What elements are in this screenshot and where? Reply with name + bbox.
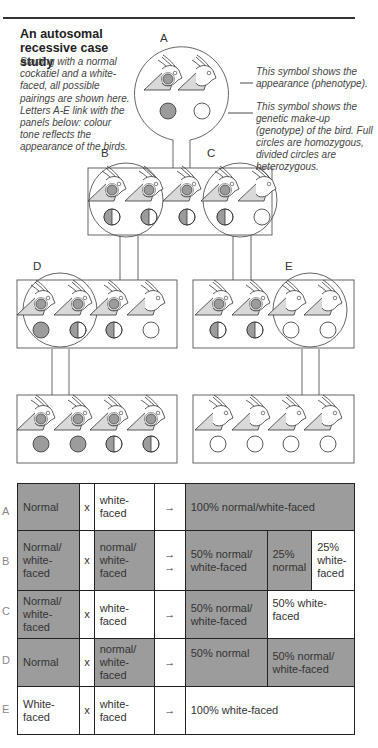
result-cell: 25% normal	[267, 531, 312, 591]
result-cell: 100% white-faced	[185, 687, 354, 735]
table-row-b: Normal/ white-faced x normal/ white-face…	[18, 531, 355, 591]
cross-cell: x	[80, 687, 94, 735]
genotype-circle-grey	[160, 103, 176, 119]
parent2-cell: normal/ white-faced	[94, 639, 154, 687]
parent1-cell: Normal	[18, 639, 80, 687]
results-table: Normal x white-faced → 100% normal/white…	[17, 483, 355, 735]
result-cell: 50% normal	[185, 639, 267, 687]
result-cell: 100% normal/white-faced	[185, 484, 354, 531]
arrow-cell: →	[154, 591, 185, 639]
arrow-cell: →	[154, 687, 185, 735]
parent2-cell: white-faced	[94, 484, 154, 531]
panel-bc	[88, 163, 277, 280]
cross-cell: x	[80, 591, 94, 639]
result-cell: 50% normal/ white-faced	[185, 591, 267, 639]
result-cell: 50% white-faced	[267, 591, 355, 639]
row-label-e: E	[2, 703, 9, 715]
table-row-e: White-faced x white-faced → 100% white-f…	[18, 687, 355, 735]
bird-icon-white-faced	[178, 55, 216, 90]
parent1-cell: Normal	[18, 484, 80, 531]
row-label-c: C	[2, 605, 10, 617]
arrow-cell: →	[154, 639, 185, 687]
cross-cell: x	[80, 484, 94, 531]
bird-icon-normal	[144, 55, 182, 90]
table-row-d: Normal x normal/ white-faced → 50% norma…	[18, 639, 355, 687]
result-cell: 50% normal/ white-faced	[185, 531, 267, 591]
panel-e-offspring	[193, 395, 354, 463]
parent1-cell: Normal/ white-faced	[18, 531, 80, 591]
table-row-c: Normal/ white-faced x white-faced → 50% …	[18, 591, 355, 639]
result-cell: 50% normal/ white-faced	[267, 639, 355, 687]
pedigree-diagram	[0, 0, 378, 480]
arrow-cell: → →	[154, 531, 185, 591]
panel-d-offspring	[17, 395, 177, 463]
cross-cell: x	[80, 639, 94, 687]
parent2-cell: white-faced	[94, 687, 154, 735]
row-label-b: B	[2, 555, 9, 567]
result-cell: 25% white-faced	[312, 531, 355, 591]
panel-d	[17, 273, 177, 395]
row-label-d: D	[2, 654, 10, 666]
parent2-cell: normal/ white-faced	[94, 531, 154, 591]
arrow-cell: →	[154, 484, 185, 531]
row-label-a: A	[2, 505, 9, 517]
cross-cell: x	[80, 531, 94, 591]
genotype-circle-white	[194, 103, 210, 119]
parent1-cell: White-faced	[18, 687, 80, 735]
panel-a	[134, 47, 253, 168]
panel-e	[193, 273, 354, 395]
parent2-cell: white-faced	[94, 591, 154, 639]
parent1-cell: Normal/ white-faced	[18, 591, 80, 639]
table-row-a: Normal x white-faced → 100% normal/white…	[18, 484, 355, 531]
